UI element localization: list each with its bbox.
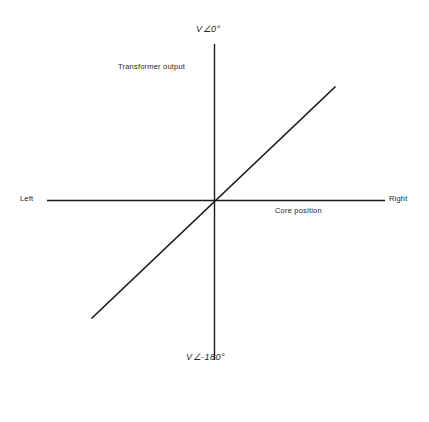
- y-axis-bottom-label: V∠-180°: [186, 352, 225, 362]
- x-axis-left-label: Left: [20, 194, 33, 203]
- figure-container: V∠0° V∠-180° Left Right Transformer outp…: [0, 0, 429, 422]
- y-axis-top-label: V∠0°: [196, 24, 221, 34]
- data-series-line: [92, 87, 335, 318]
- y-axis-title: Transformer output: [118, 62, 185, 71]
- figure-caption: FIGURE 12–15 LVDT Output: [0, 378, 429, 422]
- x-axis-title: Core position: [275, 206, 322, 215]
- x-axis-right-label: Right: [389, 194, 408, 203]
